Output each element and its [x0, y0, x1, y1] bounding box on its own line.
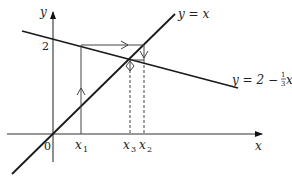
y-tick-label-2: 2 [42, 40, 49, 53]
fraction-numerator: 1 [281, 71, 285, 79]
function-label-main: y = 2 − [231, 73, 278, 87]
y-axis-label: y [39, 5, 47, 19]
svg-text:x: x [123, 138, 130, 152]
x3-label: x 3 [123, 138, 136, 154]
svg-text:1: 1 [83, 145, 88, 154]
x-axis-label: x [255, 139, 262, 153]
svg-text:2: 2 [147, 145, 152, 154]
cobweb-diagram: y x 0 2 y = x y = 2 − 1 3 x x 1 x 3 x 2 [0, 0, 292, 177]
svg-text:3: 3 [131, 145, 136, 154]
x1-label: x 1 [75, 138, 88, 154]
fraction-denominator: 3 [281, 80, 285, 88]
x2-label: x 2 [139, 138, 152, 154]
iteration-function-line-label: y = 2 − 1 3 x [231, 71, 292, 88]
identity-line-label: y = x [177, 7, 209, 21]
function-label-var: x [286, 73, 292, 87]
origin-label: 0 [44, 140, 51, 153]
svg-text:x: x [139, 138, 146, 152]
svg-text:x: x [75, 138, 82, 152]
